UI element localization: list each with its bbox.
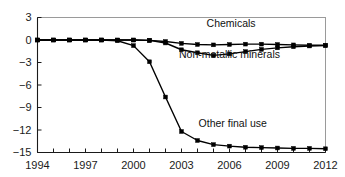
series-marker [52,38,56,42]
series-marker [148,60,152,64]
series-marker [260,42,264,46]
series-marker [84,38,88,42]
chart-canvas: 30−3−6−9−12−15 1994199720002003200620092… [0,0,345,177]
series-marker [212,43,216,47]
series-marker [196,43,200,47]
series-marker [260,146,264,150]
series-marker [308,44,312,48]
x-tick-label: 2000 [121,159,145,171]
series-marker [244,145,248,149]
series-marker [228,43,232,47]
series-marker [292,146,296,150]
series-marker [132,44,136,48]
series-marker [148,38,152,42]
series-marker [308,146,312,150]
x-tick-label: 1997 [73,159,97,171]
x-tick-label: 2009 [265,159,289,171]
y-tick-label: 3 [25,11,31,23]
y-tick-label: −3 [19,56,32,68]
x-tick-label: 2012 [313,159,337,171]
series-marker [68,38,72,42]
series-label-non-metallic-minerals: Non-metallic minerals [179,48,280,60]
series-marker [164,95,168,99]
y-tick-label: −15 [13,146,32,158]
series-marker [180,41,184,45]
x-tick-label: 2003 [169,159,193,171]
y-tick-label: −12 [13,124,32,136]
series-marker [116,39,120,43]
series-marker [324,44,328,48]
series-marker [292,45,296,49]
x-tick-label: 2006 [217,159,241,171]
series-marker [132,38,136,42]
y-tick-label: 0 [25,34,31,46]
series-marker [244,42,248,46]
y-tick-label: −6 [19,79,32,91]
y-tick-label: −9 [19,101,32,113]
series-marker [276,146,280,150]
line-chart: 30−3−6−9−12−15 1994199720002003200620092… [0,0,345,177]
series-marker [180,130,184,134]
series-marker [212,143,216,147]
series-label-chemicals: Chemicals [207,17,256,29]
series-marker [324,147,328,151]
series-marker [100,38,104,42]
series-label-other-final-use: Other final use [199,117,267,129]
series-marker [164,41,168,45]
series-marker [196,139,200,143]
series-marker [36,38,40,42]
x-tick-label: 1994 [25,159,49,171]
series-marker [228,144,232,148]
